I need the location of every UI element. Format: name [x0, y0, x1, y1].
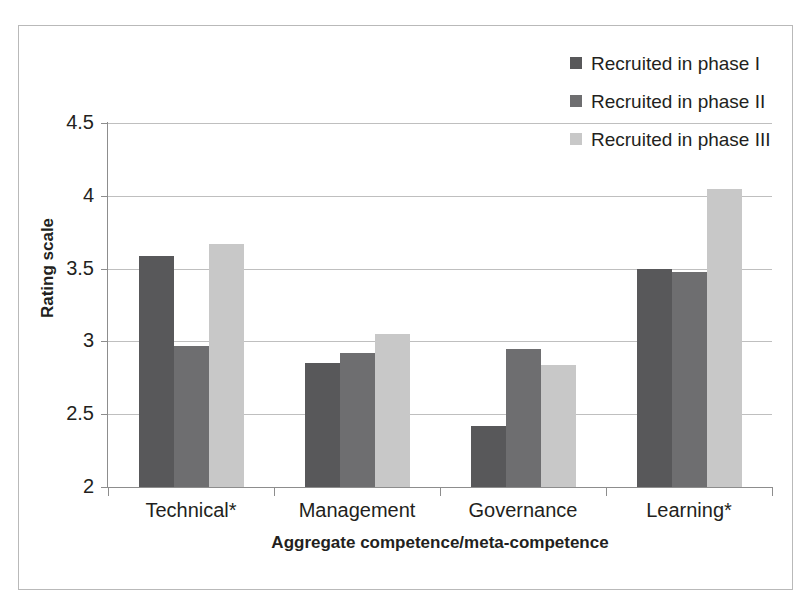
y-tick-label: 2.5	[50, 403, 94, 423]
y-axis-title: Rating scale	[38, 198, 58, 338]
x-tick-mark	[772, 488, 773, 496]
bar	[375, 334, 410, 487]
plot-area	[108, 123, 772, 487]
legend-swatch-icon	[570, 95, 582, 107]
chart-legend: Recruited in phase IRecruited in phase I…	[570, 44, 795, 158]
bar	[672, 272, 707, 487]
legend-label: Recruited in phase I	[591, 54, 760, 73]
x-tick-mark	[108, 488, 109, 496]
bar	[471, 426, 506, 487]
x-tick-label: Management	[274, 497, 440, 523]
bar	[541, 365, 576, 487]
legend-item: Recruited in phase I	[570, 44, 795, 82]
legend-swatch-icon	[570, 57, 582, 69]
legend-label: Recruited in phase III	[591, 130, 771, 149]
bar	[305, 363, 340, 487]
legend-item: Recruited in phase II	[570, 82, 795, 120]
bar	[139, 256, 174, 488]
legend-item: Recruited in phase III	[570, 120, 795, 158]
y-tick-mark	[101, 487, 108, 488]
gridline	[108, 196, 772, 197]
x-tick-mark	[606, 488, 607, 496]
y-tick-mark	[101, 196, 108, 197]
y-tick-mark	[101, 123, 108, 124]
bar	[506, 349, 541, 487]
x-axis-title: Aggregate competence/meta-competence	[108, 533, 772, 553]
x-tick-label: Learning*	[606, 497, 772, 523]
bar	[209, 244, 244, 487]
x-tick-label: Governance	[440, 497, 606, 523]
y-tick-label: 2	[50, 476, 94, 496]
x-tick-mark	[274, 488, 275, 496]
x-tick-label: Technical*	[108, 497, 274, 523]
bar	[340, 353, 375, 487]
y-tick-mark	[101, 269, 108, 270]
bar	[174, 346, 209, 487]
y-tick-label: 4.5	[50, 112, 94, 132]
bar-chart: 22.533.544.5 Rating scale Aggregate comp…	[0, 0, 811, 604]
bar	[707, 189, 742, 487]
legend-label: Recruited in phase II	[591, 92, 765, 111]
y-tick-mark	[101, 341, 108, 342]
bar	[637, 269, 672, 487]
y-tick-mark	[101, 414, 108, 415]
x-tick-mark	[440, 488, 441, 496]
y-axis-line	[107, 122, 108, 488]
legend-swatch-icon	[570, 133, 582, 145]
